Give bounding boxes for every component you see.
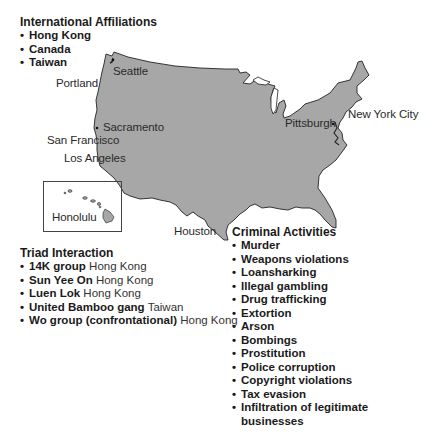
bullet-icon: • bbox=[232, 401, 236, 415]
international-affiliations-list: •Hong Kong •Canada •Taiwan bbox=[20, 29, 157, 70]
bullet-icon: • bbox=[20, 274, 24, 288]
bullet-icon: • bbox=[20, 287, 24, 301]
international-affiliations-title: International Affiliations bbox=[20, 15, 157, 29]
bullet-icon: • bbox=[20, 43, 24, 57]
bullet-icon: • bbox=[20, 29, 24, 43]
list-item: •Taiwan bbox=[20, 56, 157, 70]
list-item: •Copyright violations bbox=[232, 374, 422, 388]
list-item: •Bombings bbox=[232, 334, 422, 348]
list-item: •Extortion bbox=[232, 307, 422, 321]
list-item: •United Bamboo gang Taiwan bbox=[20, 301, 238, 315]
bullet-icon: • bbox=[232, 347, 236, 361]
city-label-san-francisco: San Francisco bbox=[47, 134, 119, 146]
list-item: •Canada bbox=[20, 43, 157, 57]
bullet-icon: • bbox=[232, 293, 236, 307]
city-label-sacramento: Sacramento bbox=[103, 121, 164, 133]
bullet-icon: • bbox=[232, 253, 236, 267]
bullet-icon: • bbox=[232, 388, 236, 402]
city-label-new-york-city: New York City bbox=[348, 108, 418, 120]
list-item: •Tax evasion bbox=[232, 388, 422, 402]
list-item: •Prostitution bbox=[232, 347, 422, 361]
list-item: •Infiltration of legitimate businesses bbox=[232, 401, 391, 428]
bullet-icon: • bbox=[20, 260, 24, 274]
list-item: •Weapons violations bbox=[232, 253, 422, 267]
city-label-pittsburgh: Pittsburgh bbox=[285, 117, 336, 129]
bullet-icon: • bbox=[232, 307, 236, 321]
city-label-houston: Houston bbox=[174, 225, 216, 237]
list-item: •Loansharking bbox=[232, 266, 422, 280]
list-item: •Luen Lok Hong Kong bbox=[20, 287, 238, 301]
triad-interaction-title: Triad Interaction bbox=[20, 246, 238, 260]
list-item: •Arson bbox=[232, 320, 422, 334]
city-label-honolulu: Honolulu bbox=[52, 211, 97, 223]
bullet-icon: • bbox=[232, 239, 236, 253]
criminal-activities-title: Criminal Activities bbox=[232, 225, 422, 239]
list-item: •Police corruption bbox=[232, 361, 422, 375]
city-label-los-angeles: Los Angeles bbox=[64, 152, 126, 164]
continental-us-outline bbox=[94, 52, 369, 240]
sacramento-dot bbox=[96, 127, 99, 130]
bullet-icon: • bbox=[232, 361, 236, 375]
bullet-icon: • bbox=[232, 374, 236, 388]
list-item: •Illegal gambling bbox=[232, 280, 422, 294]
list-item: •Wo group (confrontational) Hong Kong bbox=[20, 314, 238, 328]
city-label-portland: Portland bbox=[56, 77, 98, 89]
triad-interaction: Triad Interaction •14K group Hong Kong •… bbox=[20, 246, 238, 328]
triad-interaction-list: •14K group Hong Kong •Sun Yee On Hong Ko… bbox=[20, 260, 238, 328]
criminal-activities: Criminal Activities •Murder •Weapons vio… bbox=[232, 225, 422, 428]
criminal-activities-list: •Murder •Weapons violations •Loansharkin… bbox=[232, 239, 422, 428]
bullet-icon: • bbox=[20, 314, 24, 328]
bullet-icon: • bbox=[20, 301, 24, 315]
list-item: •Murder bbox=[232, 239, 422, 253]
bullet-icon: • bbox=[232, 334, 236, 348]
list-item: •Drug trafficking bbox=[232, 293, 422, 307]
list-item: •14K group Hong Kong bbox=[20, 260, 238, 274]
bullet-icon: • bbox=[20, 56, 24, 70]
international-affiliations: International Affiliations •Hong Kong •C… bbox=[20, 15, 157, 70]
bullet-icon: • bbox=[232, 280, 236, 294]
list-item: •Sun Yee On Hong Kong bbox=[20, 274, 238, 288]
hawaii-inset-frame bbox=[43, 181, 122, 232]
list-item: •Hong Kong bbox=[20, 29, 157, 43]
bullet-icon: • bbox=[232, 320, 236, 334]
bullet-icon: • bbox=[232, 266, 236, 280]
